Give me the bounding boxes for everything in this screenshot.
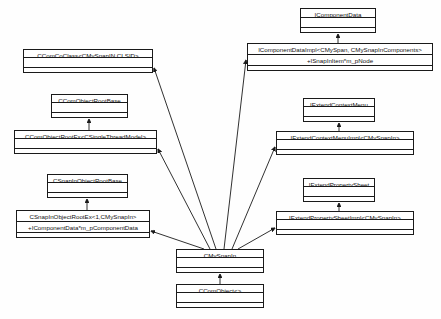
edge-cmysnapin-csnapinobjectrootex <box>151 231 204 249</box>
uml-class-name: IExtendContextMenuImpl<CMySnapIn> <box>277 132 413 139</box>
edge-cmysnapin-iextendcontextmenuimpl <box>232 147 275 249</box>
uml-attributes-compartment <box>15 139 156 148</box>
uml-class-name: CMySnapIn <box>177 250 263 257</box>
uml-class-ccomobject[interactable]: CComObject<> <box>176 284 264 308</box>
uml-attributes-compartment <box>177 293 263 302</box>
uml-class-icomponentdataimpl[interactable]: IComponentDataImpl<CMySpan, CMySnapInCom… <box>247 43 433 71</box>
uml-class-name: CComObjectRootEx<CSingleThreadModel> <box>15 131 156 138</box>
uml-operations-compartment <box>15 149 156 153</box>
uml-attributes-compartment <box>177 258 263 267</box>
uml-class-icomponentdata[interactable]: IComponentData <box>300 8 376 33</box>
uml-class-csnapinobjectrootex[interactable]: CSnapInObjectRootEx<1,CMySnapIn>+ICompon… <box>16 210 150 238</box>
uml-attributes-compartment <box>301 18 375 27</box>
uml-operations-compartment <box>248 66 432 70</box>
uml-attributes-compartment <box>48 183 127 192</box>
uml-operations-compartment <box>301 28 375 32</box>
uml-class-name: IExtendPropertySheet <box>304 179 374 186</box>
uml-operations-compartment <box>52 113 127 117</box>
uml-class-name: IExtendContextMenu <box>304 99 374 106</box>
uml-attributes-compartment <box>52 103 127 112</box>
edge-cmysnapin-iextendpropertysheetimpl <box>238 228 275 249</box>
uml-operations-compartment <box>48 193 127 197</box>
uml-class-name: IExtendPropertySheetImpl<CMySnapIn> <box>277 212 413 219</box>
uml-attributes-compartment <box>277 140 413 149</box>
uml-class-name: CSnapInObjectRootBase <box>48 175 127 182</box>
uml-class-cmysnapin[interactable]: CMySnapIn <box>176 249 264 273</box>
uml-class-name: IComponentDataImpl<CMySpan, CMySnapInCom… <box>248 44 432 54</box>
uml-class-ccomcoclass[interactable]: CComCoClass<CMySnapIN,CLSID> <box>23 49 153 73</box>
uml-operations-compartment <box>177 268 263 272</box>
uml-class-iextendcontextmenuimpl[interactable]: IExtendContextMenuImpl<CMySnapIn> <box>276 131 414 155</box>
uml-class-iextendpropertysheetimpl[interactable]: IExtendPropertySheetImpl<CMySnapIn> <box>276 211 414 235</box>
uml-class-ccomobjectrootbase[interactable]: CComObjectRootBase <box>51 94 128 118</box>
uml-class-ccomobjectrootex[interactable]: CComObjectRootEx<CSingleThreadModel> <box>14 130 157 154</box>
uml-class-diagram-canvas: IComponentDataIComponentDataImpl<CMySpan… <box>0 0 441 319</box>
uml-operations-compartment <box>17 233 149 237</box>
uml-class-name: CSnapInObjectRootEx<1,CMySnapIn> <box>17 211 149 221</box>
uml-attributes-compartment: +IComponentData*m_pComponentData <box>17 222 149 232</box>
edge-cmysnapin-icomponentdataimpl <box>224 60 246 249</box>
uml-operations-compartment <box>304 197 374 201</box>
uml-operations-compartment <box>277 230 413 234</box>
uml-operations-compartment <box>177 303 263 307</box>
uml-class-name: CComObject<> <box>177 285 263 292</box>
uml-class-name: CComCoClass<CMySnapIN,CLSID> <box>24 50 152 57</box>
uml-operations-compartment <box>24 68 152 72</box>
uml-class-iextendpropertysheet[interactable]: IExtendPropertySheet <box>303 178 375 202</box>
uml-attributes-compartment <box>304 107 374 116</box>
uml-operations-compartment <box>277 150 413 154</box>
uml-class-csnapinobjectrootbase[interactable]: CSnapInObjectRootBase <box>47 174 128 198</box>
uml-class-name: CComObjectRootBase <box>52 95 127 102</box>
uml-class-name: IComponentData <box>301 9 375 17</box>
uml-attributes-compartment <box>304 187 374 196</box>
uml-attributes-compartment: +ISnapInItem*m_pNode <box>248 55 432 65</box>
edge-cmysnapin-ccomcoclass <box>154 68 216 249</box>
uml-attributes-compartment <box>24 58 152 67</box>
uml-operations-compartment <box>304 117 374 121</box>
uml-attributes-compartment <box>277 220 413 229</box>
uml-class-iextendcontextmenu[interactable]: IExtendContextMenu <box>303 98 375 122</box>
edge-cmysnapin-ccomobjectrootex <box>158 149 210 249</box>
